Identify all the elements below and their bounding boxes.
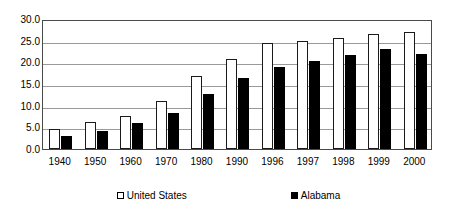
hollow-square-icon [117,192,124,199]
bar-united-states [333,38,344,149]
bar-united-states [226,59,237,149]
x-tick-label: 1960 [113,156,148,167]
bar-group [114,21,149,149]
x-tick-label: 1999 [361,156,396,167]
y-tick-label: 30.0 [0,15,40,25]
bar-alabama [416,54,427,149]
bar-group [291,21,326,149]
bar-group [256,21,291,149]
bar-alabama [238,78,249,149]
x-tick-label: 1940 [42,156,77,167]
bars-layer [43,21,431,149]
x-tick-label: 1997 [290,156,325,167]
y-axis: 30.025.020.015.010.05.00.0 [0,12,40,156]
bar-united-states [120,116,131,149]
plot-area [42,20,432,150]
x-tick-label: 1990 [219,156,254,167]
bar-group [220,21,255,149]
x-tick-label: 1980 [184,156,219,167]
y-tick-label: 20.0 [0,58,40,68]
bar-united-states [404,32,415,149]
bar-alabama [132,123,143,149]
x-tick-label: 1996 [255,156,290,167]
bar-group [185,21,220,149]
bar-group [43,21,78,149]
x-tick-label: 1998 [326,156,361,167]
bar-alabama [309,61,320,149]
y-tick-label: 5.0 [0,123,40,133]
legend-item-united-states[interactable]: United States [117,190,187,201]
bar-alabama [168,113,179,149]
bar-group [362,21,397,149]
bar-united-states [368,34,379,149]
bar-alabama [274,67,285,149]
y-tick-label: 0.0 [0,145,40,155]
x-tick-label: 2000 [397,156,432,167]
x-tick-label: 1950 [77,156,112,167]
y-tick-label: 15.0 [0,80,40,90]
bar-united-states [49,129,60,149]
legend-item-alabama[interactable]: Alabama [291,190,340,201]
filled-square-icon [291,192,298,199]
y-tick-label: 25.0 [0,37,40,47]
bar-alabama [203,94,214,149]
x-tick-label: 1970 [148,156,183,167]
bar-united-states [156,101,167,149]
bar-united-states [191,76,202,149]
bar-group [327,21,362,149]
y-tick-label: 10.0 [0,102,40,112]
x-axis: 1940195019601970198019901996199719981999… [42,152,432,172]
bar-alabama [380,49,391,149]
bar-united-states [262,43,273,149]
bar-united-states [85,122,96,149]
chart-legend: United StatesAlabama [0,186,457,204]
legend-item-label: United States [127,190,187,201]
bar-group [398,21,433,149]
bar-united-states [297,41,308,149]
bar-group [78,21,113,149]
bar-group [149,21,184,149]
bar-chart: 30.025.020.015.010.05.00.0 1940195019601… [0,0,457,217]
bar-alabama [61,136,72,149]
bar-alabama [97,131,108,149]
bar-alabama [345,55,356,149]
legend-item-label: Alabama [301,190,340,201]
